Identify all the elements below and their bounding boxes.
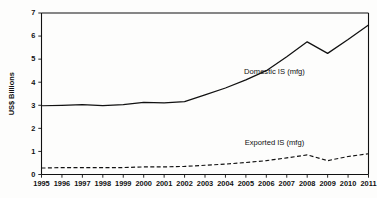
y-tick-label: 6 [31,31,35,40]
x-tick-label: 2010 [340,179,356,188]
x-tick-label: 2003 [197,179,213,188]
x-tick-label: 2011 [360,179,376,188]
x-tick-label: 1999 [115,179,131,188]
y-tick-label: 3 [31,101,35,110]
x-tick-label: 2000 [135,179,151,188]
y-axis-ticks: 01234567 [31,8,41,179]
y-axis-title: US$ Billions [7,72,16,115]
series-line-domestic-is-mfg [42,25,369,106]
series-annotation: Exported IS (mfg) [245,138,305,147]
x-tick-label: 2009 [319,179,335,188]
chart-figure: 01234567 1995199619971998199920002001200… [0,0,377,198]
x-tick-label: 1998 [95,179,111,188]
series-line-exported-is-mfg [42,154,369,168]
x-tick-label: 2008 [299,179,315,188]
x-tick-label: 2001 [156,179,172,188]
line-chart: 01234567 1995199619971998199920002001200… [0,0,377,198]
x-tick-label: 2005 [238,179,254,188]
plot-frame [42,13,369,175]
y-tick-label: 1 [31,147,35,156]
y-tick-label: 4 [31,78,36,87]
x-tick-label: 1997 [74,179,90,188]
x-tick-label: 2002 [176,179,192,188]
x-tick-label: 2007 [279,179,295,188]
x-axis-ticks: 1995199619971998199920002001200220032004… [33,175,376,189]
y-tick-label: 7 [31,8,35,17]
y-tick-label: 0 [31,170,35,179]
series-annotation: Domestic IS (mfg) [244,67,305,76]
y-tick-label: 2 [31,124,35,133]
x-tick-label: 1996 [54,179,70,188]
y-tick-label: 5 [31,54,35,63]
x-tick-label: 1995 [33,179,49,188]
x-tick-label: 2004 [217,179,234,188]
series-annotations: Domestic IS (mfg)Exported IS (mfg) [244,67,305,147]
data-series-layer [42,25,369,168]
x-tick-label: 2006 [258,179,274,188]
